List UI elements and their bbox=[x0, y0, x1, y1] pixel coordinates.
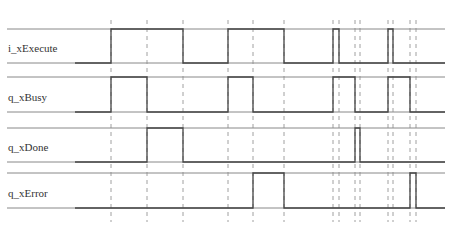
signal-label: i_xExecute bbox=[8, 42, 58, 54]
signal-row-i_xExecute: i_xExecute bbox=[7, 29, 445, 63]
waveform bbox=[75, 77, 445, 112]
signal-label: q_xBusy bbox=[8, 91, 48, 103]
signal-row-q_xError: q_xError bbox=[7, 173, 445, 208]
timing-diagram: i_xExecuteq_xBusyq_xDoneq_xError bbox=[0, 0, 449, 229]
signal-label: q_xError bbox=[8, 187, 48, 199]
waveform bbox=[75, 29, 445, 63]
signal-rows: i_xExecuteq_xBusyq_xDoneq_xError bbox=[7, 29, 445, 208]
signal-row-q_xDone: q_xDone bbox=[7, 128, 445, 162]
signal-row-q_xBusy: q_xBusy bbox=[7, 77, 445, 112]
signal-label: q_xDone bbox=[8, 141, 48, 153]
waveform bbox=[75, 128, 445, 162]
waveform bbox=[75, 173, 445, 208]
time-markers bbox=[111, 20, 416, 222]
